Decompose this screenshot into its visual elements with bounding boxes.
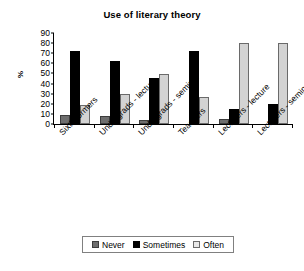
y-tick-label: 50: [41, 69, 50, 78]
y-tick-mark: [51, 83, 54, 84]
y-axis-label: %: [16, 65, 25, 85]
chart-title: Use of literary theory: [0, 9, 304, 20]
y-tick-mark: [51, 93, 54, 94]
y-tick-label: 20: [41, 99, 50, 108]
chart-legend: NeverSometimesOften: [82, 236, 234, 253]
y-tick-mark: [51, 113, 54, 114]
y-tick-mark: [51, 73, 54, 74]
x-axis-labels: Sixth formersUndergrads - lectureUndergr…: [0, 128, 304, 228]
y-tick-label: 70: [41, 49, 50, 58]
y-tick-label: 80: [41, 39, 50, 48]
y-tick-label: 30: [41, 89, 50, 98]
legend-label: Sometimes: [143, 240, 186, 250]
y-tick-label: 90: [41, 29, 50, 38]
y-tick-mark: [51, 43, 54, 44]
y-tick-mark: [51, 33, 54, 34]
y-tick-label: 10: [41, 109, 50, 118]
legend-swatch-sometimes: [133, 241, 140, 248]
y-tick-mark: [51, 103, 54, 104]
legend-swatch-never: [92, 241, 99, 248]
legend-label: Often: [203, 240, 224, 250]
legend-item: Often: [193, 240, 224, 250]
y-tick-mark: [51, 63, 54, 64]
y-tick-label: 60: [41, 59, 50, 68]
y-tick-mark: [51, 53, 54, 54]
bar-chart: Use of literary theory % 010203040506070…: [0, 0, 304, 271]
y-tick-label: 40: [41, 79, 50, 88]
legend-swatch-often: [193, 241, 200, 248]
legend-item: Sometimes: [133, 240, 186, 250]
legend-item: Never: [92, 240, 125, 250]
legend-label: Never: [102, 240, 125, 250]
